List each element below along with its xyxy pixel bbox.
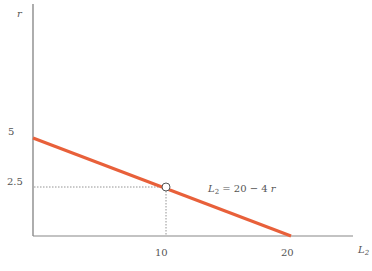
tick-y-5: 5 <box>8 126 14 137</box>
x-axis-label: L2 <box>357 244 370 257</box>
tick-x-20: 20 <box>281 247 294 258</box>
tick-y-2-5: 2.5 <box>7 176 23 187</box>
equilibrium-point <box>162 183 170 191</box>
equation-label: L2 = 20 − 4 r <box>207 183 277 196</box>
chart: r L2 5 2.5 10 20 L2 = 20 − 4 r <box>0 0 372 271</box>
tick-x-10: 10 <box>155 247 168 258</box>
y-axis-label: r <box>17 8 23 19</box>
